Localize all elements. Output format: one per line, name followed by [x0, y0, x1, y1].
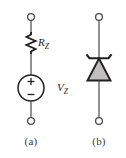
resistor-label-main: R [38, 36, 45, 48]
caption-panel-a: (a) [20, 135, 42, 147]
zener-equivalent-figure: RZ VZ (a) (b) [0, 0, 126, 158]
caption-panel-b: (b) [88, 135, 110, 147]
panel-a-top-terminal [28, 14, 35, 21]
voltage-source-label: VZ [57, 81, 68, 96]
panel-b-circuit [87, 14, 112, 125]
panel-a-bottom-terminal [28, 118, 35, 125]
zener-diode-triangle-icon [88, 59, 111, 81]
voltage-source-label-subscript: Z [64, 87, 68, 96]
panel-b-top-terminal [96, 14, 103, 21]
resistor-label: RZ [38, 36, 49, 51]
resistor-label-subscript: Z [45, 42, 49, 51]
panel-b-bottom-terminal [96, 118, 103, 125]
voltage-source-label-main: V [57, 81, 64, 93]
resistor-zigzag-icon [27, 32, 36, 54]
panel-a-circuit [18, 14, 44, 125]
